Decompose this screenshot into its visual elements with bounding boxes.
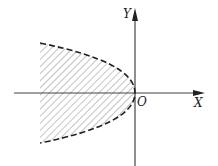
origin-label: O (137, 95, 147, 109)
y-axis-label: Y (123, 7, 132, 21)
y-axis-arrow-icon (132, 8, 138, 21)
x-axis-label: X (193, 96, 203, 110)
coordinate-diagram: Y X O (0, 0, 218, 166)
